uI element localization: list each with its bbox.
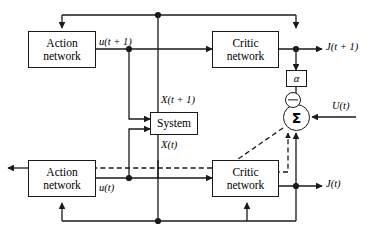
critic-network-top-block[interactable]: Critic network [212,31,279,68]
junction-u-t [126,175,132,181]
label-j-t-plus-1: J(t + 1) [326,41,358,52]
minus-sign-node [285,92,301,108]
junction-j-tplus1 [293,46,299,52]
action-network-top-block[interactable]: Action network [28,31,96,68]
label-u-t: u(t) [99,182,114,193]
summation-node[interactable]: Σ [283,104,310,131]
critic-network-top-line2: network [227,50,265,63]
system-label: System [157,117,191,130]
junction-top-spine [155,12,161,18]
critic-network-bottom-line1: Critic [232,166,258,179]
junction-bottom-spine [155,218,161,224]
action-network-top-line1: Action [46,37,77,50]
wire-u-tplus1-to-system [129,49,150,119]
wire-ut-to-system [129,129,150,178]
label-x-t-plus-1: X(t + 1) [161,94,195,105]
label-j-t: J(t) [326,178,341,189]
block-diagram: Action network Critic network System Act… [0,0,375,237]
action-network-bottom-block[interactable]: Action network [28,160,96,197]
critic-network-bottom-line2: network [227,179,265,192]
label-x-t: X(t) [161,139,177,150]
summation-label: Σ [292,110,302,126]
junction-j-t [293,183,299,189]
system-block[interactable]: System [150,112,198,135]
action-network-top-line2: network [43,50,81,63]
alpha-gain-block[interactable]: α [286,70,307,87]
label-big-u-t: U(t) [332,100,350,111]
alpha-gain-label: α [294,73,300,84]
action-network-bottom-line2: network [43,179,81,192]
critic-network-top-line1: Critic [232,37,258,50]
critic-network-bottom-block[interactable]: Critic network [212,160,279,197]
label-u-t-plus-1: u(t + 1) [99,36,132,47]
action-network-bottom-line1: Action [46,166,77,179]
